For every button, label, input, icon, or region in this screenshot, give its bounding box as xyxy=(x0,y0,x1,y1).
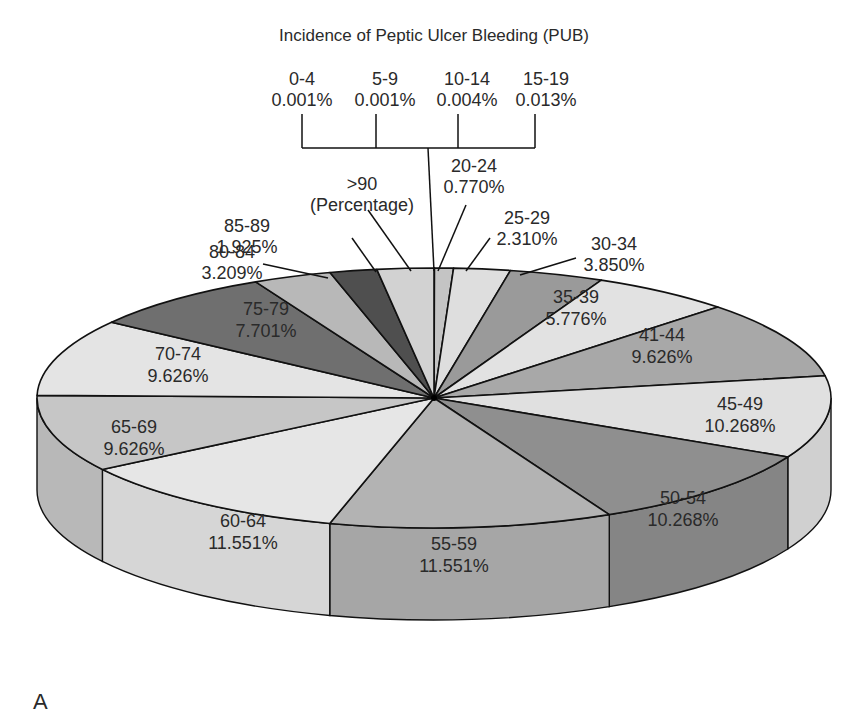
slice-label: 11.551% xyxy=(208,533,278,553)
panel-label: A xyxy=(33,689,48,714)
pie-slices xyxy=(37,268,831,528)
slice-label: 3.209% xyxy=(201,263,262,283)
slice-label: 0.013% xyxy=(515,90,576,110)
slice-label: 10-14 xyxy=(444,69,490,89)
slice-label: 45-49 xyxy=(717,394,763,414)
slice-label: 85-89 xyxy=(224,216,270,236)
slice-label: 10.268% xyxy=(704,416,775,436)
leader-line xyxy=(520,258,576,275)
slice-label: 5-9 xyxy=(372,69,398,89)
slice-label: 35-39 xyxy=(553,287,599,307)
slice-label: 70-74 xyxy=(155,344,201,364)
slice-label: 9.626% xyxy=(631,347,692,367)
slice-label: (Percentage) xyxy=(310,195,414,215)
pie-chart: Incidence of Peptic Ulcer Bleeding (PUB)… xyxy=(0,0,861,722)
slice-label: 20-24 xyxy=(451,156,497,176)
slice-label: 0.001% xyxy=(354,90,415,110)
leader-line xyxy=(368,210,411,271)
pie-center xyxy=(431,395,437,401)
slice-label: 0.770% xyxy=(443,177,504,197)
slice-label: 60-64 xyxy=(220,511,266,531)
slice-label: 30-34 xyxy=(591,234,637,254)
slice-label: 0-4 xyxy=(289,69,315,89)
slice-label: 9.626% xyxy=(147,366,208,386)
slice-label: 9.626% xyxy=(103,439,164,459)
slice-label: 2.310% xyxy=(496,229,557,249)
chart-title: Incidence of Peptic Ulcer Bleeding (PUB) xyxy=(279,26,589,45)
slice-label: 55-59 xyxy=(431,534,477,554)
leader-line xyxy=(438,205,466,271)
bracket-stem xyxy=(428,148,434,271)
leader-line xyxy=(466,238,490,271)
leader-line xyxy=(352,238,376,272)
slice-label: 75-79 xyxy=(243,299,289,319)
slice-label: 11.551% xyxy=(419,556,489,576)
slice-label: 3.850% xyxy=(583,255,644,275)
slice-label: 65-69 xyxy=(111,417,157,437)
slice-label: 25-29 xyxy=(504,208,550,228)
slice-label: >90 xyxy=(347,174,378,194)
slice-label: 7.701% xyxy=(235,321,296,341)
slice-label: 0.004% xyxy=(436,90,497,110)
slice-label: 5.776% xyxy=(545,309,606,329)
slice-label: 0.001% xyxy=(271,90,332,110)
slice-label: 15-19 xyxy=(523,69,569,89)
slice-label: 10.268% xyxy=(647,510,718,530)
slice-label: 41-44 xyxy=(639,325,685,345)
slice-label: 80-84 xyxy=(209,242,255,262)
slice-label: 50-54 xyxy=(660,488,706,508)
